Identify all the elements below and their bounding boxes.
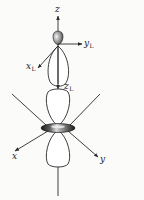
figure-canvas: z yL xL zL x y [0,0,144,200]
z-axis-label: z [55,5,60,14]
upper-lobe-bottom [46,89,69,126]
x-label-text: x [12,151,17,161]
y-local-axis-label: yL [84,39,94,48]
top-local-frame [38,16,82,89]
upper-right-diagonal [70,94,100,125]
x-axis [15,131,48,151]
z-local-subscript: L [69,85,73,92]
lower-lobe-bottom [46,130,69,167]
y-local-label-text: y [84,38,89,48]
torus-highlight [51,125,65,128]
x-axis-label: x [12,152,17,161]
small-lobe-top [53,31,63,45]
y-label-text: y [100,154,105,164]
y-axis-label: y [100,155,105,164]
y-local-subscript: L [90,42,94,49]
x-local-subscript: L [32,65,36,72]
bottom-global-frame [12,89,100,196]
x-local-axis-label: xL [26,62,36,71]
upper-left-diagonal [12,94,46,125]
x-local-label-text: x [26,61,31,71]
orbital-diagram [0,0,144,200]
z-label-text: z [55,4,60,14]
z-local-axis-label: zL [64,82,73,91]
y-axis [68,131,98,157]
